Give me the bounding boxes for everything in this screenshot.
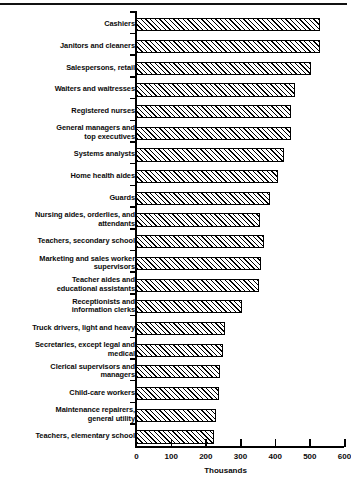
bar [136, 257, 261, 270]
bar-track [136, 294, 347, 316]
bar [136, 127, 291, 140]
y-axis-tick [130, 271, 137, 273]
bar-track [136, 77, 347, 99]
bar-row: Registered nurses [0, 99, 347, 121]
x-axis-tick [171, 439, 173, 447]
y-axis-tick [130, 380, 137, 382]
y-axis-tick [130, 358, 137, 360]
y-axis-tick [130, 33, 137, 35]
bar-row: Secretaries, except legal and medical [0, 337, 347, 359]
bar [136, 300, 242, 313]
bar-row: Maintenance repairers, general utility [0, 402, 347, 424]
bar-row: Guards [0, 186, 347, 208]
x-axis-tick [344, 439, 346, 447]
bar-category-label: Home health aides [3, 172, 135, 180]
bar [136, 409, 216, 422]
bar-category-label: Teachers, secondary school [3, 237, 135, 245]
bar [136, 213, 260, 226]
bar-row: Truck drivers, light and heavy [0, 316, 347, 338]
x-axis-tick [309, 439, 311, 447]
bar [136, 40, 320, 53]
bar-track [136, 229, 347, 251]
bar-track [136, 359, 347, 381]
bar [136, 18, 320, 31]
bar-track [136, 272, 347, 294]
bar-row: Home health aides [0, 164, 347, 186]
bar [136, 387, 219, 400]
y-axis-tick [130, 337, 137, 339]
bar-row: Teacher aides and educational assistants [0, 272, 347, 294]
bar-row: Systems analysts [0, 142, 347, 164]
x-axis-tick-label: 0 [134, 452, 138, 461]
y-axis-tick [130, 76, 137, 78]
x-axis-tick [240, 439, 242, 447]
bar-track [136, 34, 347, 56]
x-axis-title: Thousands [0, 466, 347, 475]
top-rule-divider [0, 3, 347, 5]
y-axis-tick [130, 185, 137, 187]
x-axis-tick-label: 100 [164, 452, 177, 461]
x-axis-tick [205, 439, 207, 447]
bar [136, 170, 278, 183]
bar [136, 83, 295, 96]
bar [136, 430, 214, 443]
y-axis-tick [130, 141, 137, 143]
bar-track [136, 207, 347, 229]
y-axis-tick [130, 315, 137, 317]
bar-category-label: Truck drivers, light and heavy [3, 324, 135, 332]
bar-category-label: Clerical supervisors and managers [3, 363, 135, 380]
bar-track [136, 186, 347, 208]
bar-category-label: Child-care workers [3, 389, 135, 397]
bar-category-label: Nursing aides, orderlies, and attendants [3, 211, 135, 228]
bar-category-label: General managers and top executives [3, 124, 135, 141]
bar-row: Cashiers [0, 12, 347, 34]
y-axis-tick [130, 163, 137, 165]
bar-row: Clerical supervisors and managers [0, 359, 347, 381]
y-axis-tick [130, 402, 137, 404]
bar-category-label: Waiters and waitresses [3, 85, 135, 93]
plot-area: CashiersJanitors and cleanersSalesperson… [0, 12, 347, 444]
bar-track [136, 381, 347, 403]
bar-row: Teachers, elementary school [0, 424, 347, 446]
bar-row: Teachers, secondary school [0, 229, 347, 251]
bar [136, 192, 270, 205]
bar-category-label: Guards [3, 194, 135, 202]
bar-track [136, 142, 347, 164]
bar-row: Marketing and sales worker supervisors [0, 251, 347, 273]
bar-track [136, 316, 347, 338]
bar-category-label: Salespersons, retail [3, 64, 135, 72]
bar [136, 105, 291, 118]
bar-category-label: Receptionists and information clerks [3, 298, 135, 315]
x-axis-tick-label: 400 [268, 452, 281, 461]
bar-row: Salespersons, retail [0, 55, 347, 77]
y-axis-tick [130, 54, 137, 56]
bar-row: Receptionists and information clerks [0, 294, 347, 316]
bar-track [136, 164, 347, 186]
y-axis-tick [130, 293, 137, 295]
bar [136, 322, 225, 335]
bar-row: Waiters and waitresses [0, 77, 347, 99]
bar-category-label: Registered nurses [3, 107, 135, 115]
bar-row: General managers and top executives [0, 120, 347, 142]
bar-track [136, 12, 347, 34]
bar-category-label: Marketing and sales worker supervisors [3, 255, 135, 272]
bar-category-label: Teacher aides and educational assistants [3, 276, 135, 293]
x-axis-tick [275, 439, 277, 447]
bar [136, 148, 284, 161]
x-axis-tick-label: 600 [338, 452, 351, 461]
bar-row: Child-care workers [0, 381, 347, 403]
bar [136, 279, 259, 292]
bar-category-label: Systems analysts [3, 150, 135, 158]
bar-category-label: Cashiers [3, 20, 135, 28]
bar [136, 365, 220, 378]
bar [136, 344, 223, 357]
y-axis-tick [130, 228, 137, 230]
x-axis-tick-label: 200 [199, 452, 212, 461]
bar-category-label: Teachers, elementary school [3, 432, 135, 440]
bar-row: Nursing aides, orderlies, and attendants [0, 207, 347, 229]
bar-category-label: Maintenance repairers, general utility [3, 406, 135, 423]
bar-track [136, 402, 347, 424]
bar-track [136, 337, 347, 359]
y-axis-tick [130, 250, 137, 252]
